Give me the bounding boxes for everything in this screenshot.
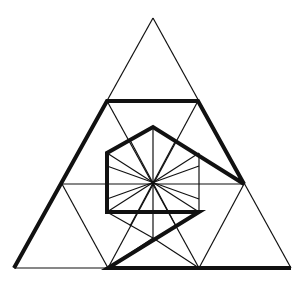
grid-line [62,184,108,268]
grid-line [199,184,244,268]
grid-line [107,212,153,238]
diagram-canvas [0,0,308,281]
triangle-diagram [0,0,308,281]
grid-line [153,238,199,268]
thin-grid-lines [14,18,291,268]
